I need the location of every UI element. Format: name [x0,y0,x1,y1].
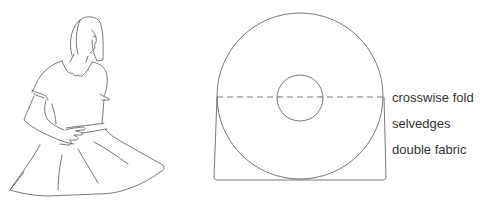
outer-circle [217,13,383,179]
label-selvedges: selvedges [392,117,451,131]
circle-skirt-pattern-diagram [214,13,386,180]
label-crosswise-fold: crosswise fold [392,91,474,105]
inner-waist-circle [277,75,323,121]
fabric-outline [214,97,386,180]
woman-figure [10,17,164,196]
label-double-fabric: double fabric [392,143,466,157]
